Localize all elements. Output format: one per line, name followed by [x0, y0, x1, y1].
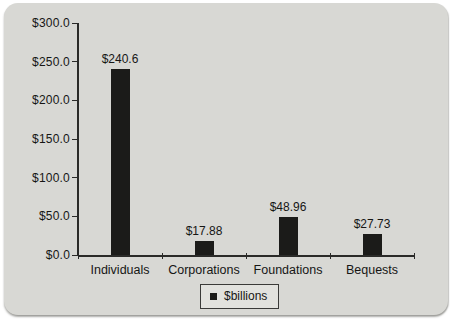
y-axis-tick-label: $300.0 [16, 16, 70, 30]
y-axis-tick-mark [72, 177, 77, 178]
y-axis-tick-mark [72, 100, 77, 101]
legend: $billions [200, 284, 279, 309]
legend-square-icon [210, 293, 217, 300]
category-label: Corporations [159, 263, 249, 277]
bar-chart: $300.0$250.0$200.0$150.0$100.0$50.0$0.0$… [4, 3, 448, 315]
category-label: Bequests [327, 263, 417, 277]
y-axis-tick-label: $250.0 [16, 55, 70, 69]
x-axis-tick-mark [330, 253, 331, 259]
chart-card: $300.0$250.0$200.0$150.0$100.0$50.0$0.0$… [4, 3, 448, 315]
x-axis-tick-mark [162, 253, 163, 259]
y-axis-tick-label: $0.0 [16, 248, 70, 262]
bar-value-label: $48.96 [248, 200, 328, 214]
y-axis-tick-label: $150.0 [16, 132, 70, 146]
y-axis-tick-mark [72, 255, 77, 256]
bar-value-label: $240.6 [80, 52, 160, 66]
bar-value-label: $17.88 [164, 224, 244, 238]
y-axis-tick-label: $100.0 [16, 171, 70, 185]
y-axis-tick-mark [72, 23, 77, 24]
x-axis-tick-mark [246, 253, 247, 259]
bar-individuals [111, 69, 130, 255]
y-axis-line [77, 23, 79, 256]
bar-bequests [363, 234, 382, 255]
x-axis-tick-mark [414, 253, 415, 259]
y-axis-tick-label: $50.0 [16, 209, 70, 223]
bar-value-label: $27.73 [332, 217, 412, 231]
y-axis-tick-label: $200.0 [16, 93, 70, 107]
bar-corporations [195, 241, 214, 255]
bar-foundations [279, 217, 298, 255]
x-axis-tick-mark [78, 253, 79, 259]
y-axis-tick-mark [72, 139, 77, 140]
y-axis-tick-mark [72, 61, 77, 62]
category-label: Individuals [75, 263, 165, 277]
y-axis-tick-mark [72, 216, 77, 217]
legend-label: $billions [224, 289, 267, 303]
category-label: Foundations [243, 263, 333, 277]
